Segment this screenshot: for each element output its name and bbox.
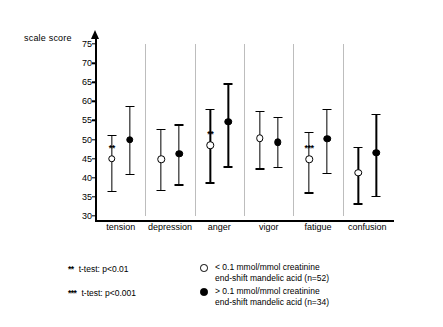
error-bar-cap: [255, 111, 264, 112]
legend-significance: ***t-test: p<0.001: [68, 288, 188, 298]
x-tick-label: depression: [148, 222, 192, 232]
error-bar-cap: [107, 135, 116, 136]
error-bar-cap: [125, 106, 134, 107]
y-tick-mark: [92, 62, 96, 63]
y-tick-mark: [92, 215, 96, 216]
y-tick-mark: [92, 101, 96, 102]
group-separator: [293, 44, 294, 216]
legend-series-line1: > 0.1 mmol/mmol creatinine: [215, 286, 320, 297]
legend-series-line2: end-shift mandelic acid (n=34): [215, 297, 329, 308]
y-tick-label: 55: [82, 116, 92, 125]
error-bar-cap: [224, 166, 233, 167]
error-bar-cap: [273, 117, 282, 118]
error-bar-cap: [224, 83, 233, 84]
legend-significance: **t-test: p<0.01: [68, 264, 188, 274]
error-bar-cap: [206, 182, 215, 183]
y-tick-label: 30: [82, 212, 92, 221]
y-tick-mark: [92, 43, 96, 44]
error-bar-cap: [175, 184, 184, 185]
error-bar-cap: [255, 168, 264, 169]
plot-area: 30354045505560657075tension**depressiona…: [96, 44, 392, 216]
y-tick-label: 70: [82, 59, 92, 68]
legend-series-label: < 0.1 mmol/mmol creatinineend-shift mand…: [200, 262, 438, 284]
error-bar-cap: [206, 109, 215, 110]
chart-legend: **t-test: p<0.01< 0.1 mmol/mmol creatini…: [68, 262, 438, 310]
error-bar-cap: [273, 167, 282, 168]
error-bar-cap: [372, 114, 381, 115]
error-bar-cap: [354, 203, 363, 204]
x-tick-label: fatigue: [304, 222, 331, 232]
legend-series-line2: end-shift mandelic acid (n=52): [215, 273, 329, 284]
group-separator: [343, 44, 344, 216]
group-separator: [195, 44, 196, 216]
legend-stars: ***: [68, 288, 76, 298]
data-point-open: [256, 135, 264, 143]
x-tick-label: confusion: [348, 222, 387, 232]
legend-stars: **: [68, 264, 74, 274]
data-point-filled: [126, 136, 134, 144]
y-tick-label: 50: [82, 135, 92, 144]
error-bar-cap: [175, 124, 184, 125]
y-tick-label: 40: [82, 173, 92, 182]
y-tick-mark: [92, 196, 96, 197]
y-tick-mark: [92, 177, 96, 178]
error-bar-cap: [305, 132, 314, 133]
y-tick-mark: [92, 158, 96, 159]
error-bar-cap: [323, 109, 332, 110]
error-bar-cap: [354, 147, 363, 148]
data-point-open: [305, 156, 313, 164]
y-tick-label: 75: [82, 40, 92, 49]
error-bar-cap: [372, 196, 381, 197]
data-point-filled: [274, 138, 282, 146]
y-tick-mark: [92, 82, 96, 83]
y-axis-label: scale score: [24, 33, 72, 43]
y-tick-label: 65: [82, 78, 92, 87]
y-tick-label: 60: [82, 97, 92, 106]
y-tick-mark: [92, 139, 96, 140]
error-bar-cap: [157, 129, 166, 130]
group-separator: [244, 44, 245, 216]
error-bar-cap: [125, 174, 134, 175]
data-point-open: [157, 156, 165, 164]
data-point-filled: [373, 149, 381, 157]
error-bar-cap: [157, 190, 166, 191]
error-bar-cap: [107, 191, 116, 192]
y-tick-label: 35: [82, 192, 92, 201]
data-point-filled: [225, 118, 233, 126]
legend-series-line1: < 0.1 mmol/mmol creatinine: [215, 262, 320, 273]
significance-marker: ***: [304, 143, 313, 153]
x-tick-label: tension: [106, 222, 135, 232]
x-tick-label: vigor: [259, 222, 279, 232]
data-point-filled: [175, 150, 183, 158]
data-point-open: [355, 169, 363, 177]
x-tick-label: anger: [208, 222, 231, 232]
legend-significance-label: t-test: p<0.01: [79, 264, 129, 274]
data-point-open: [108, 155, 116, 163]
error-bar-cap: [305, 192, 314, 193]
group-separator: [145, 44, 146, 216]
significance-marker: **: [207, 129, 213, 139]
y-tick-label: 45: [82, 154, 92, 163]
significance-marker: **: [109, 143, 115, 153]
legend-significance-label: t-test: p<0.001: [81, 288, 136, 298]
error-bar-cap: [323, 173, 332, 174]
legend-row: ***t-test: p<0.001> 0.1 mmol/mmol creati…: [68, 286, 438, 310]
legend-row: **t-test: p<0.01< 0.1 mmol/mmol creatini…: [68, 262, 438, 286]
y-tick-mark: [92, 120, 96, 121]
data-point-filled: [323, 135, 331, 143]
legend-series-label: > 0.1 mmol/mmol creatinineend-shift mand…: [200, 286, 438, 308]
data-point-open: [207, 142, 215, 150]
